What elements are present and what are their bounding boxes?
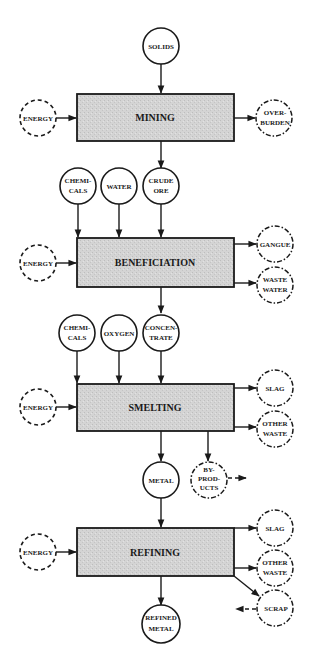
stage-mining: SOLIDS ENERGY MINING OVER- BURDEN [20,28,292,168]
node-waste-water: WASTE WATER [257,267,293,303]
node-overburden: OVER- BURDEN [256,100,292,136]
process-label: MINING [135,112,175,123]
node-label: WASTE [263,276,288,284]
process-label: REFINING [130,547,180,558]
node-concentrate: CONCEN- TRATE [143,315,179,351]
node-other-waste-smelting: OTHER WASTE [257,411,293,447]
node-energy-smelting: ENERGY [20,389,56,425]
node-label: CONCEN- [145,324,178,332]
process-flow-diagram: SOLIDS ENERGY MINING OVER- BURDEN CHEMI-… [0,0,311,664]
node-label: ENERGY [23,549,53,557]
node-label: OVER- [264,109,287,117]
stage-refining: ENERGY REFINING SLAG OTHER WASTE SCRAP R… [20,510,293,643]
node-label: WASTE [263,430,288,438]
node-label: OTHER [262,420,288,428]
node-label: OTHER [262,559,288,567]
node-label: WASTE [263,569,288,577]
node-chemicals-smelting: CHEMI- CALS [59,315,95,351]
node-label: SLAG [265,525,285,533]
node-refined-metal: REFINED METAL [142,605,180,643]
node-oxygen: OXYGEN [101,315,137,351]
node-label: ENERGY [23,260,53,268]
node-energy-beneficiation: ENERGY [20,245,56,281]
node-label: CHEMI- [64,324,92,332]
node-energy-refining: ENERGY [20,534,56,570]
node-label: OXYGEN [104,330,135,338]
node-metal: METAL [143,462,179,498]
node-label: CRUDE [149,177,174,185]
node-label: BURDEN [260,119,290,127]
node-energy-mining: ENERGY [20,100,56,136]
process-label: SMELTING [129,402,182,413]
node-label: WATER [262,286,288,294]
node-label: METAL [148,625,173,633]
node-label: REFINED [145,614,177,622]
node-slag-refining: SLAG [257,510,293,546]
node-other-waste-refining: OTHER WASTE [257,550,293,586]
node-label: UCTS [200,484,219,492]
node-water: WATER [101,168,137,204]
process-label: BENEFICIATION [115,257,196,268]
node-label: SCRAP [264,605,288,613]
node-label: METAL [148,477,173,485]
node-label: CALS [68,334,87,342]
node-slag-smelting: SLAG [257,370,293,406]
node-label: PROD- [198,475,221,483]
node-label: ENERGY [23,404,53,412]
node-label: ENERGY [23,115,53,123]
node-gangue: GANGUE [257,226,293,262]
stage-smelting: CHEMI- CALS OXYGEN CONCEN- TRATE ENERGY … [20,315,293,527]
node-crude-ore: CRUDE ORE [143,168,179,204]
node-chemicals: CHEMI- CALS [60,168,96,204]
node-label: BY- [203,466,215,474]
node-label: CHEMI- [65,177,93,185]
node-label: CALS [69,187,88,195]
stage-beneficiation: CHEMI- CALS WATER CRUDE ORE ENERGY BENEF… [20,168,293,313]
node-solids: SOLIDS [143,28,179,64]
node-scrap: SCRAP [257,590,293,626]
node-label: ORE [153,187,169,195]
node-label: SOLIDS [148,43,174,51]
node-label: TRATE [149,334,173,342]
node-label: SLAG [265,385,285,393]
node-by-products: BY- PROD- UCTS [191,462,227,498]
node-label: GANGUE [260,241,291,249]
node-label: WATER [106,183,132,191]
flow-arrow [234,576,259,596]
